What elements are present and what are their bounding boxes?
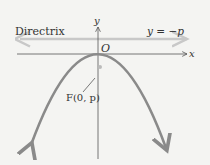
directrix-label: Directrix [15,25,65,38]
origin-label: O [101,42,110,55]
focus-leader-line [83,78,95,92]
directrix-equation-label: y = −p [146,25,184,37]
focus-label: F(0, p) [66,92,100,103]
x-axis-label: x [189,48,195,59]
parabola-diagram: Directrix y = −p O x y F(0, p) [0,0,210,165]
focus-point [98,65,102,69]
y-axis-label: y [93,15,100,26]
